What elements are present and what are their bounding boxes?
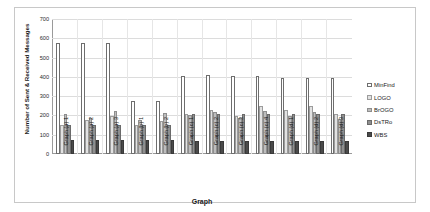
x-tick-label: Graph (b) 1	[138, 117, 144, 157]
legend-label: BrOGO	[374, 107, 393, 113]
x-tick-cell: Graph (d) 3	[328, 155, 353, 197]
legend-item-brogo[interactable]: BrOGO	[367, 104, 430, 116]
plot-area: 0100200300400500600700	[52, 19, 352, 154]
legend-swatch-icon	[367, 83, 372, 88]
x-tick-cell: Graph (d) 2	[303, 155, 328, 197]
x-axis-tick-labels: Graph (a) 1Graph (a) 2Graph (a) 3Graph (…	[53, 155, 353, 197]
x-tick-label: Graph (c) 3	[238, 117, 244, 157]
legend-label: WBS	[374, 132, 387, 138]
x-tick-label: Graph (d) 1	[288, 117, 294, 157]
x-axis-title: Graph	[52, 198, 352, 205]
legend-item-dstro[interactable]: DsTRo	[367, 116, 430, 128]
chart-legend: MinFindLOGOBrOGODsTRoWBS	[367, 79, 430, 141]
legend-swatch-icon	[367, 132, 372, 137]
chart-frame: Number of Sent & Received Messages 01002…	[14, 7, 416, 203]
legend-item-logo[interactable]: LOGO	[367, 91, 430, 103]
x-tick-label: Graph (c) 4	[263, 117, 269, 157]
x-tick-cell: Graph (a) 2	[78, 155, 103, 197]
bar[interactable]	[96, 140, 100, 154]
x-tick-cell: Graph (b) 2	[153, 155, 178, 197]
y-tick-600: 600	[23, 35, 49, 41]
legend-item-wbs[interactable]: WBS	[367, 129, 430, 141]
x-tick-cell: Graph (b) 1	[128, 155, 153, 197]
y-tick-100: 100	[23, 132, 49, 138]
x-tick-cell: Graph (d) 1	[278, 155, 303, 197]
y-tick-200: 200	[23, 112, 49, 118]
x-tick-label: Graph (c) 2	[213, 117, 219, 157]
legend-swatch-icon	[367, 120, 372, 125]
legend-swatch-icon	[367, 108, 372, 113]
x-tick-label: Graph (b) 2	[163, 117, 169, 157]
y-tick-300: 300	[23, 93, 49, 99]
x-tick-cell: Graph (a) 3	[103, 155, 128, 197]
bar[interactable]	[71, 140, 75, 154]
legend-label: DsTRo	[374, 119, 392, 125]
x-tick-label: Graph (a) 2	[88, 117, 94, 157]
bar[interactable]	[270, 141, 274, 154]
y-tick-700: 700	[23, 16, 49, 22]
bar[interactable]	[295, 141, 299, 154]
plot-inner: 0100200300400500600700	[52, 19, 352, 154]
legend-item-minfind[interactable]: MinFind	[367, 79, 430, 91]
bar[interactable]	[220, 141, 224, 155]
x-tick-cell: Graph (a) 1	[53, 155, 78, 197]
bar[interactable]	[121, 140, 125, 154]
x-tick-label: Graph (a) 3	[113, 117, 119, 157]
y-tick-0: 0	[23, 151, 49, 157]
bar[interactable]	[245, 141, 249, 154]
x-tick-label: Graph (d) 2	[313, 117, 319, 157]
bar[interactable]	[171, 140, 175, 154]
y-tick-500: 500	[23, 55, 49, 61]
x-tick-label: Graph (d) 3	[338, 117, 344, 157]
x-tick-cell: Graph (c) 1	[178, 155, 203, 197]
bar[interactable]	[146, 140, 150, 154]
x-tick-label: Graph (c) 1	[188, 117, 194, 157]
x-tick-cell: Graph (c) 4	[253, 155, 278, 197]
bar[interactable]	[320, 141, 324, 154]
legend-label: MinFind	[374, 82, 395, 88]
x-tick-cell: Graph (c) 3	[228, 155, 253, 197]
bar[interactable]	[345, 141, 349, 154]
x-tick-cell: Graph (c) 2	[203, 155, 228, 197]
legend-swatch-icon	[367, 95, 372, 100]
y-tick-400: 400	[23, 74, 49, 80]
bar[interactable]	[195, 141, 199, 155]
bars-layer	[53, 19, 352, 154]
x-tick-label: Graph (a) 1	[63, 117, 69, 157]
legend-label: LOGO	[374, 95, 391, 101]
